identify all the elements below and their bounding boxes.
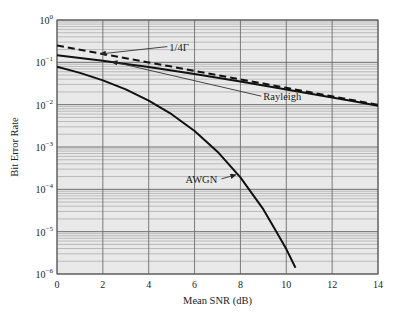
annotation-label: AWGN: [185, 174, 217, 185]
x-tick-label: 10: [281, 279, 291, 290]
x-tick-label: 6: [192, 279, 197, 290]
x-tick-label: 8: [238, 279, 243, 290]
x-tick-label: 4: [146, 279, 151, 290]
y-tick-label: 10−6: [36, 267, 54, 280]
ber-chart: 1/4ΓRayleighAWGN 02468101214 10010−110−2…: [0, 0, 399, 321]
y-tick-label: 10−1: [36, 55, 54, 68]
x-axis-ticks: 02468101214: [55, 279, 384, 290]
annotation-label: 1/4Γ: [169, 42, 189, 53]
y-tick-label: 10−2: [36, 98, 54, 111]
x-tick-label: 12: [327, 279, 337, 290]
y-tick-label: 10−5: [36, 225, 54, 238]
y-axis-title: Bit Error Rate: [9, 117, 20, 177]
x-axis-title: Mean SNR (dB): [183, 295, 252, 307]
x-tick-label: 2: [100, 279, 105, 290]
y-axis-ticks: 10010−110−210−310−410−510−6: [36, 13, 54, 280]
y-tick-label: 100: [40, 13, 54, 26]
y-tick-label: 10−3: [36, 140, 54, 153]
y-tick-label: 10−4: [36, 182, 54, 195]
annotation-label: Rayleigh: [263, 91, 302, 102]
x-tick-label: 0: [55, 279, 60, 290]
x-tick-label: 14: [373, 279, 383, 290]
